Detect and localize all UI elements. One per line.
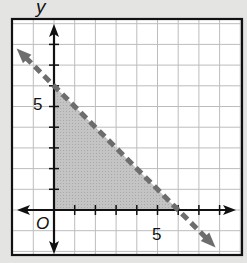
origin-label: O	[36, 214, 49, 233]
x-tick-label-5: 5	[152, 225, 161, 244]
inequality-graph: y O 5 5	[0, 0, 247, 263]
coordinate-plane: y O 5 5	[0, 0, 247, 263]
y-axis-label: y	[34, 0, 47, 17]
y-tick-label-5: 5	[33, 95, 42, 114]
